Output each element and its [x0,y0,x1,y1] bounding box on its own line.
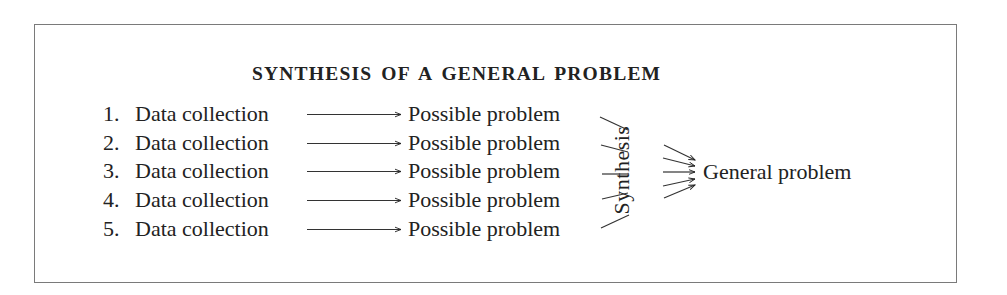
row-number: 2. [103,129,120,157]
row-number: 3. [103,157,120,185]
possible-problem-label: Possible problem [408,215,560,243]
synthesis-label: Synthesis [610,126,634,215]
row-number: 4. [103,186,120,214]
data-collection-label: Data collection [135,129,269,157]
possible-problem-label: Possible problem [408,186,560,214]
general-problem-label: General problem [703,158,851,186]
possible-problem-label: Possible problem [408,129,560,157]
data-collection-label: Data collection [135,157,269,185]
possible-problem-label: Possible problem [408,100,560,128]
row-4: 4. Data collection Possible problem [0,186,620,214]
row-number: 5. [103,215,120,243]
data-collection-label: Data collection [135,100,269,128]
row-2: 2. Data collection Possible problem [0,129,620,157]
diagram-title: SYNTHESIS OF A GENERAL PROBLEM [252,62,734,86]
row-number: 1. [103,100,120,128]
possible-problem-label: Possible problem [408,157,560,185]
data-collection-label: Data collection [135,215,269,243]
row-1: 1. Data collection Possible problem [0,100,620,128]
row-3: 3. Data collection Possible problem [0,157,620,185]
row-5: 5. Data collection Possible problem [0,215,620,243]
data-collection-label: Data collection [135,186,269,214]
